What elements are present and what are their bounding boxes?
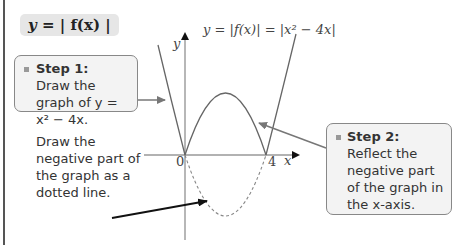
curve-negative-part-dashed [185, 155, 266, 216]
step1-callout: Step 1: Draw the graph of y = x² − 4x. [14, 55, 138, 112]
curve-reflected-arch [185, 93, 266, 155]
bullet-icon [336, 135, 341, 140]
origin-label: 0 [176, 154, 184, 169]
curve-right-branch [266, 34, 296, 155]
bullet-icon [24, 67, 29, 72]
note-arrow [112, 201, 207, 218]
curve-equation-label: y = |f(x)| = |x² − 4x| [202, 22, 336, 37]
step2-title: Step 2: [347, 128, 445, 145]
root-label: 4 [268, 154, 276, 169]
step1-title: Step 1: [36, 60, 131, 77]
y-axis-label: y [172, 36, 181, 51]
step2-body: Reflect the negative part of the graph i… [347, 145, 445, 213]
x-axis-label: x [284, 153, 292, 168]
step2-callout: Step 2: Reflect the negative part of the… [326, 123, 452, 215]
dotted-line-note: Draw the negative part of the graph as a… [36, 133, 146, 201]
step1-body: Draw the graph of y = x² − 4x. [36, 77, 131, 128]
